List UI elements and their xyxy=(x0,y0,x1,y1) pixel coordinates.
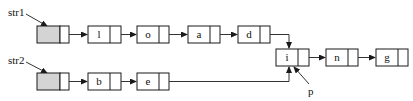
svg-text:d: d xyxy=(246,28,252,40)
svg-text:i: i xyxy=(285,51,288,63)
str1-pointer-arrow xyxy=(26,14,47,26)
p-pointer-arrow xyxy=(294,67,309,84)
list-node-a: a xyxy=(188,26,220,43)
svg-text:l: l xyxy=(97,28,100,40)
list-node-b: b xyxy=(88,73,121,90)
str2-head-node xyxy=(37,73,69,90)
p-label: p xyxy=(308,85,314,97)
edge-d-i xyxy=(270,35,289,49)
str2-label: str2 xyxy=(8,54,25,66)
svg-text:o: o xyxy=(145,28,151,40)
edge-e-i xyxy=(169,67,289,82)
list-node-e: e xyxy=(137,73,169,90)
list-node-d: d xyxy=(238,26,270,43)
list-node-i: i xyxy=(276,49,309,66)
str2-pointer-arrow xyxy=(26,62,47,73)
svg-text:a: a xyxy=(197,28,202,40)
list-node-g: g xyxy=(376,49,408,66)
svg-text:e: e xyxy=(146,75,151,87)
list-node-l: l xyxy=(88,26,121,43)
str1-head-node xyxy=(37,26,69,43)
str1-label: str1 xyxy=(8,6,25,18)
list-node-n: n xyxy=(326,49,358,66)
svg-text:g: g xyxy=(384,51,390,63)
list-node-o: o xyxy=(137,26,169,43)
svg-text:b: b xyxy=(96,75,102,87)
linked-list-diagram: str1 l o a d str2 xyxy=(0,0,413,101)
svg-text:n: n xyxy=(334,51,340,63)
